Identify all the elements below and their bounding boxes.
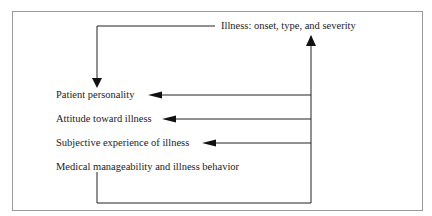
arrowhead-down-icon xyxy=(92,78,102,88)
node-subjective-experience: Subjective experience of illness xyxy=(56,137,189,149)
arrowhead-up-icon xyxy=(306,35,316,46)
arrowhead-left-icon xyxy=(202,140,216,147)
node-illness: Illness: onset, type, and severity xyxy=(221,20,356,32)
edge-manageability xyxy=(97,172,311,203)
node-attitude: Attitude toward illness xyxy=(56,113,152,125)
arrowhead-left-icon xyxy=(148,92,162,99)
node-patient-personality: Patient personality xyxy=(56,89,134,101)
arrowhead-left-icon xyxy=(162,116,176,123)
node-medical-manageability: Medical manageability and illness behavi… xyxy=(56,161,239,173)
feedback-connector xyxy=(97,26,215,82)
connector-lines xyxy=(0,0,432,216)
